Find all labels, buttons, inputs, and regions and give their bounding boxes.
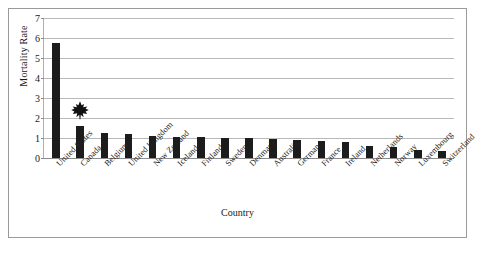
y-tick-label: 5 — [16, 58, 40, 59]
y-tick-label: 2 — [16, 118, 40, 119]
y-tick-label: 0 — [16, 158, 40, 159]
y-tick-label: 4 — [16, 78, 40, 79]
x-axis-title: Country — [9, 207, 466, 218]
y-tickmark-0 — [41, 158, 44, 159]
chart-figure: Mortality Rate 01234567 United StatesCan… — [8, 8, 467, 238]
y-axis-title: Mortality Rate — [18, 6, 32, 106]
maple-leaf-icon — [70, 100, 90, 120]
bar — [52, 43, 60, 158]
y-tick-label: 3 — [16, 98, 40, 99]
y-tick-label: 7 — [16, 18, 40, 19]
y-tick-label: 6 — [16, 38, 40, 39]
y-tick-label: 1 — [16, 138, 40, 139]
